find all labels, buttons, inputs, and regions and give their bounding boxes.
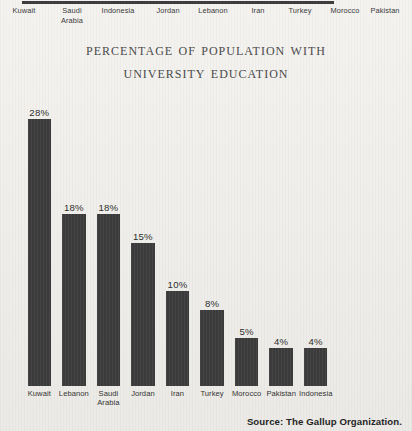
bar-value-label: 18% [64, 202, 84, 213]
x-axis-labels: KuwaitLebanonSaudi ArabiaJordanIranTurke… [0, 389, 412, 415]
bar-group: 4% [269, 334, 293, 386]
bar-value-label: 8% [205, 298, 219, 309]
bar-group: 8% [200, 296, 224, 386]
header-label: Pakistan [355, 6, 412, 16]
bar-group: 4% [304, 334, 328, 386]
bar[interactable] [131, 243, 155, 386]
bar-chart-plot-area: 28%18%18%15%10%8%5%4%4% [0, 86, 412, 386]
bar-group: 15% [131, 229, 155, 386]
bar[interactable] [200, 310, 224, 386]
bar-group: 10% [166, 277, 190, 386]
chart-title-line-1: Percentage of Population with [0, 38, 412, 61]
bar-group: 18% [97, 200, 121, 386]
bar[interactable] [97, 214, 121, 386]
chart-title-line-2: University Education [0, 61, 412, 84]
bar-value-label: 18% [98, 202, 118, 213]
bar[interactable] [269, 348, 293, 386]
bar[interactable] [166, 291, 190, 386]
bar-value-label: 4% [274, 336, 288, 347]
bar[interactable] [235, 338, 259, 386]
bar-value-label: 4% [309, 336, 323, 347]
bar-value-label: 15% [133, 231, 153, 242]
bar-value-label: 10% [168, 279, 188, 290]
bar-group: 5% [235, 324, 259, 386]
bar-value-label: 5% [239, 326, 253, 337]
header-rule [22, 1, 334, 4]
bar-group: 18% [62, 200, 86, 386]
cropped-header-strip: Kuwait Saudi Arabia Indonesia Jordan Leb… [0, 0, 412, 30]
source-note: Source: The Gallup Organization. [247, 416, 402, 427]
x-axis-tick-label: Indonesia [286, 389, 346, 398]
bar[interactable] [304, 348, 328, 386]
chart-title: Percentage of Population with University… [0, 38, 412, 84]
bar[interactable] [62, 214, 86, 386]
bar-group: 28% [28, 105, 52, 386]
bar[interactable] [28, 119, 52, 386]
bar-value-label: 28% [29, 107, 49, 118]
